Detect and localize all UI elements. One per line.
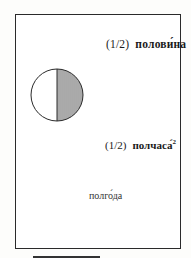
word: полго́да <box>89 190 122 201</box>
footnote-rule <box>33 256 100 258</box>
half-shaded-circle-icon <box>30 67 84 123</box>
fraction: (1/2) <box>105 139 126 151</box>
label-half: (1/2)полови́на <box>106 38 186 50</box>
word: полови́на <box>135 38 186 50</box>
label-half-hour: (1/2)полчаса́2 <box>105 138 176 151</box>
label-half-year: полго́да <box>89 190 122 201</box>
footnote-marker: 2 <box>172 138 176 146</box>
fraction: (1/2) <box>106 38 129 50</box>
word: полчаса́ <box>132 139 172 151</box>
